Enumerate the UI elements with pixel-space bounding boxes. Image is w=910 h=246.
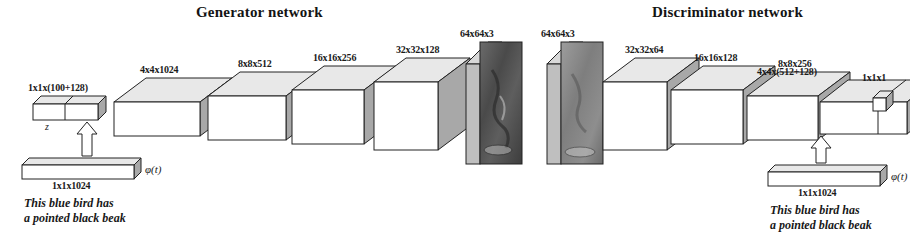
discriminator-text-embedding-symbol: φ(t) [891, 170, 907, 182]
discriminator-layer-label-1: 16x16x128 [694, 52, 737, 63]
generator-noise-block [33, 96, 106, 120]
discriminator-layer-label-0: 32x32x64 [625, 44, 663, 55]
generator-output-image-label: 64x64x3 [460, 28, 494, 39]
generator-text-embedding-symbol: φ(t) [145, 163, 161, 175]
generator-text-embedding-label: 1x1x1024 [52, 180, 90, 191]
generator-concat-arrow [77, 122, 97, 156]
discriminator-input-image-plane [547, 42, 603, 164]
generator-output-image-plane [466, 42, 522, 164]
discriminator-input-image-label: 64x64x3 [541, 28, 575, 39]
discriminator-caption-line-1: This blue bird has [770, 203, 860, 218]
generator-caption-line-1: This blue bird has [24, 196, 114, 211]
generator-noise-block-label: 1x1x(100+128) [28, 82, 88, 93]
discriminator-output-label: 1x1x1 [862, 72, 886, 83]
generator-noise-symbol: z [45, 121, 49, 132]
generator-layer-label-0: 4x4x1024 [140, 64, 178, 75]
generator-layer-label-1: 8x8x512 [238, 58, 272, 69]
discriminator-caption-line-2: a pointed black beak [770, 218, 872, 233]
architecture-diagram: Generator network Discriminator network [0, 0, 910, 246]
generator-layer-label-3: 32x32x128 [396, 44, 439, 55]
discriminator-text-embedding-label: 1x1x1024 [798, 187, 836, 198]
generator-caption-line-2: a pointed black beak [24, 211, 126, 226]
discriminator-text-embedding-bar [768, 165, 887, 186]
generator-layer-label-2: 16x16x256 [313, 52, 356, 63]
discriminator-layer-label-3: 4x4x(512+128) [757, 66, 817, 77]
generator-layer-box-3 [374, 58, 470, 150]
generator-text-embedding-bar [22, 158, 141, 179]
